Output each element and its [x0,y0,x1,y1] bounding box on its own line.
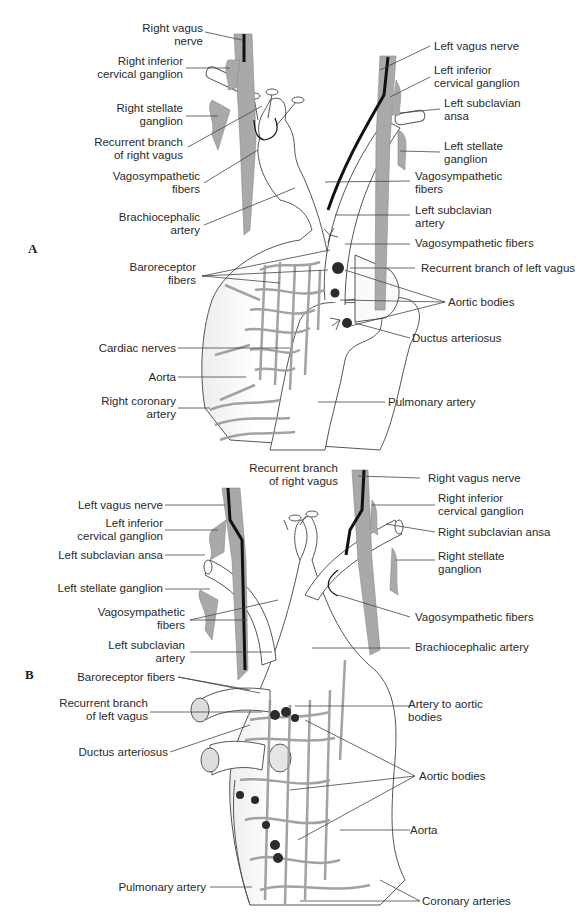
label-b-baroreceptor-fibers: Baroreceptor fibers [77,671,175,684]
label-line: Right stellate [117,102,183,115]
label-line: cervical ganglion [77,530,163,543]
label-line: Right inferior [97,55,183,68]
label-a-right-vagus-nerve: Right vagus nerve [142,22,203,48]
label-b-left-vagus-nerve: Left vagus nerve [78,499,163,512]
label-b-aortic-bodies: Aortic bodies [419,770,485,783]
label-line: fibers [130,274,196,287]
label-a-left-stellate-ganglion: Left stellate ganglion [444,140,503,166]
label-b-left-subclavian-artery: Left subclavian artery [108,639,185,665]
label-line: Left inferior [434,64,520,77]
label-line: cervical ganglion [434,77,520,90]
label-line: Left subclavian [415,204,492,217]
panel-letter-a: A [28,241,37,257]
label-line: Left inferior [77,517,163,530]
label-b-coronary-arteries: Coronary arteries [422,895,511,908]
label-b-left-stellate-ganglion: Left stellate ganglion [58,582,164,595]
label-line: cervical ganglion [438,505,524,518]
label-line: artery [108,652,185,665]
label-line: Right inferior [438,492,524,505]
label-a-aorta: Aorta [149,371,177,384]
label-line: Right stellate [438,550,504,563]
label-line: ganglion [438,563,504,576]
label-line: fibers [113,183,200,196]
panel-letter-b: B [25,667,34,683]
label-line: Vagosympathetic [113,170,200,183]
label-b-brachiocephalic-artery: Brachiocephalic artery [415,641,529,654]
label-a-right-inferior-cervical-ganglion: Right inferior cervical ganglion [97,55,183,81]
label-line: Right vagus [142,22,203,35]
label-line: Left stellate [444,140,503,153]
label-a-recurrent-branch-left-vagus: Recurrent branch of left vagus [421,262,575,275]
label-line: Recurrent branch [59,697,148,710]
label-b-recurrent-branch-right-vagus: Recurrent branch of right vagus [249,462,338,488]
label-b-right-inferior-cervical-ganglion: Right inferior cervical ganglion [438,492,524,518]
label-a-vagosympathetic-fibers-left: Vagosympathetic fibers [113,170,200,196]
label-a-left-inferior-cervical-ganglion: Left inferior cervical ganglion [434,64,520,90]
label-b-vagosympathetic-fibers: Vagosympathetic fibers [415,611,534,624]
label-b-right-vagus-nerve: Right vagus nerve [428,472,521,485]
label-a-left-vagus-nerve: Left vagus nerve [434,40,519,53]
label-a-recurrent-branch-right-vagus: Recurrent branch of right vagus [94,136,183,162]
label-line: artery [119,224,200,237]
label-line: fibers [415,183,502,196]
label-a-left-subclavian-ansa: Left subclavian ansa [444,97,521,123]
label-a-right-coronary-artery: Right coronary artery [101,395,176,421]
label-b-aorta: Aorta [410,824,438,837]
label-a-vagosympathetic-fibers-lower: Vagosympathetic fibers [415,237,534,250]
label-line: of right vagus [94,149,183,162]
label-b-ductus-arteriosus: Ductus arteriosus [79,746,168,759]
label-line: fibers [98,619,185,632]
label-line: cervical ganglion [97,68,183,81]
label-line: artery [415,217,492,230]
anatomy-illustration [0,0,588,919]
label-line: bodies [408,711,483,724]
label-b-left-subclavian-ansa: Left subclavian ansa [58,549,163,562]
label-b-pulmonary-artery: Pulmonary artery [118,881,206,894]
label-b-right-stellate-ganglion: Right stellate ganglion [438,550,504,576]
label-line: ganglion [117,115,183,128]
label-line: Artery to aortic [408,698,483,711]
label-line: Brachiocephalic [119,211,200,224]
label-a-cardiac-nerves: Cardiac nerves [99,342,176,355]
label-line: Baroreceptor [130,261,196,274]
label-a-vagosympathetic-fibers-right: Vagosympathetic fibers [415,170,502,196]
label-line: Vagosympathetic [98,606,185,619]
label-line: Vagosympathetic [415,170,502,183]
label-b-right-subclavian-ansa: Right subclavian ansa [438,526,551,539]
label-line: ansa [444,110,521,123]
label-line: of left vagus [59,710,148,723]
label-line: of right vagus [249,475,338,488]
label-line: Recurrent branch [249,462,338,475]
label-a-pulmonary-artery: Pulmonary artery [388,396,476,409]
label-b-left-inferior-cervical-ganglion: Left inferior cervical ganglion [77,517,163,543]
label-a-left-subclavian-artery: Left subclavian artery [415,204,492,230]
label-a-ductus-arteriosus: Ductus arteriosus [412,332,501,345]
label-line: ganglion [444,153,503,166]
label-b-recurrent-branch-left-vagus: Recurrent branch of left vagus [59,697,148,723]
label-line: artery [101,408,176,421]
label-b-artery-to-aortic-bodies: Artery to aortic bodies [408,698,483,724]
label-a-aortic-bodies: Aortic bodies [448,296,514,309]
label-line: Recurrent branch [94,136,183,149]
label-a-baroreceptor-fibers: Baroreceptor fibers [130,261,196,287]
label-line: Right coronary [101,395,176,408]
label-line: Left subclavian [444,97,521,110]
label-a-brachiocephalic-artery: Brachiocephalic artery [119,211,200,237]
label-b-vagosympathetic-fibers: Vagosympathetic fibers [98,606,185,632]
label-a-right-stellate-ganglion: Right stellate ganglion [117,102,183,128]
label-line: nerve [142,35,203,48]
label-line: Left subclavian [108,639,185,652]
